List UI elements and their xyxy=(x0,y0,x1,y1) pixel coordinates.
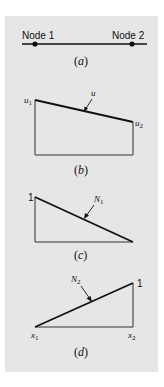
trapezoid-outline xyxy=(35,100,133,155)
node-1-dot xyxy=(32,41,37,46)
finite-element-diagram: Node 1 Node 2 (a) u1 u u2 (b) 1 N1 (c) N… xyxy=(0,0,164,387)
u-label: u xyxy=(91,88,96,98)
x2-label: x2 xyxy=(127,330,136,342)
n1-arrowhead-icon xyxy=(84,213,89,219)
panel-b: u1 u u2 (b) xyxy=(24,88,144,177)
one-label-d: 1 xyxy=(137,278,143,289)
n2-arrowhead-icon xyxy=(87,296,93,302)
u1-label: u1 xyxy=(24,95,33,107)
panel-c: 1 N1 (c) xyxy=(28,192,133,262)
node-2-label: Node 2 xyxy=(112,30,145,41)
n1-line xyxy=(35,197,133,242)
caption-c: (c) xyxy=(74,248,87,262)
caption-b: (b) xyxy=(74,163,88,177)
caption-a: (a) xyxy=(74,54,88,68)
panel-a: Node 1 Node 2 (a) xyxy=(22,30,147,68)
u-line xyxy=(35,100,133,122)
n2-label: N2 xyxy=(70,274,81,286)
one-label-c: 1 xyxy=(28,192,34,203)
panel-d: N2 1 x1 x2 (d) xyxy=(30,274,143,359)
n1-label: N1 xyxy=(93,194,104,206)
n2-arrow-icon xyxy=(81,286,90,299)
node-1-label: Node 1 xyxy=(22,30,55,41)
x1-label: x1 xyxy=(30,330,39,342)
n1-arrow-icon xyxy=(86,205,94,216)
node-2-dot xyxy=(129,41,134,46)
u2-label: u2 xyxy=(135,118,144,130)
caption-d: (d) xyxy=(74,345,88,359)
